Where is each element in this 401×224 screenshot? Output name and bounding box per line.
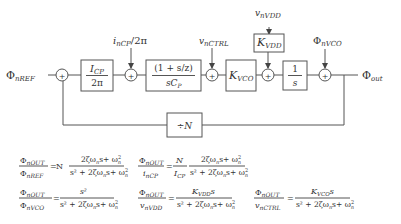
- svg-text:=: =: [53, 194, 60, 203]
- summer-5: +: [319, 69, 331, 81]
- svg-text:ΦnOUT: ΦnOUT: [139, 188, 164, 198]
- equation-vdd-transfer: ΦnOUT vnVDD = KVDDs s² + 2ζωns+ ωn2: [138, 187, 235, 211]
- svg-text:2ζωns+ ωn2: 2ζωns+ ωn2: [81, 154, 121, 165]
- svg-text:ΦnOUT: ΦnOUT: [20, 188, 45, 198]
- svg-text:N: N: [56, 162, 63, 171]
- summer-3: +: [206, 69, 218, 81]
- svg-text:N: N: [175, 156, 184, 165]
- svg-text:ΦnOUT: ΦnOUT: [139, 156, 164, 166]
- svg-text:+: +: [322, 72, 329, 81]
- svg-text:ΦnVCO: ΦnVCO: [20, 201, 44, 211]
- svg-text:=: =: [166, 162, 173, 171]
- svg-text:KVDDs: KVDDs: [191, 187, 215, 197]
- svg-text:=: =: [168, 194, 175, 203]
- output-phi-out-label: Φout: [362, 69, 383, 83]
- svg-text:s² + 2ζωns+ ωn2: s² + 2ζωns+ ωn2: [60, 199, 118, 210]
- svg-text:1: 1: [292, 64, 298, 74]
- kvdd-block: KVDD: [254, 34, 284, 52]
- svg-text:s: s: [293, 78, 298, 88]
- equation-cp-transfer: ΦnOUT inCP = N ICP 2ζωns+ ωn2 s² + 2ζωns…: [138, 154, 248, 179]
- equation-ref-transfer: ΦnOUT ΦnREF = N 2ζωns+ ωn2 s² + 2ζωns+ ω…: [19, 154, 128, 179]
- input-vnvdd-label: vnVDD: [255, 8, 281, 20]
- charge-pump-block: ICP 2π: [81, 60, 113, 91]
- svg-text:ICP: ICP: [173, 169, 185, 179]
- svg-text:÷N: ÷N: [177, 121, 194, 131]
- svg-text:2ζωns+ ωn2: 2ζωns+ ωn2: [201, 154, 241, 165]
- svg-text:ΦnOUT: ΦnOUT: [20, 156, 45, 166]
- summer-4: +: [262, 69, 274, 81]
- svg-text:2π: 2π: [91, 78, 103, 88]
- svg-text:s² + 2ζωns+ ωn2: s² + 2ζωns+ ωn2: [70, 167, 128, 178]
- svg-text:+: +: [209, 72, 216, 81]
- input-vnctrl-label: vnCTRL: [199, 36, 229, 48]
- equation-ctrl-transfer: ΦnOUT vnCTRL = KVCOs s² + 2ζωns+ ωn2: [254, 187, 354, 211]
- kvco-block: KVCO: [226, 60, 256, 91]
- svg-text:s² + 2ζωns+ ωn2: s² + 2ζωns+ ωn2: [177, 199, 235, 210]
- svg-text:s²: s²: [80, 187, 87, 196]
- integrator-block: 1 s: [283, 61, 307, 90]
- input-phi-nvco-label: ΦnVCO: [313, 35, 342, 48]
- svg-text:ΦnOUT: ΦnOUT: [255, 188, 280, 198]
- svg-text:vnVDD: vnVDD: [140, 201, 163, 211]
- svg-text:vnCTRL: vnCTRL: [255, 201, 281, 211]
- summer-2: +: [125, 69, 137, 81]
- divider-block: ÷N: [167, 113, 202, 137]
- equation-vco-transfer: ΦnOUT ΦnVCO = s² s² + 2ζωns+ ωn2: [19, 187, 118, 211]
- input-phi-nref-label: ΦnREF: [6, 69, 36, 83]
- svg-text:inCP: inCP: [143, 169, 159, 179]
- pll-block-diagram: + + + + + ΦnREF ICP 2π inCP/2π (1 + s/z)…: [0, 0, 401, 224]
- summer-1: +: [56, 69, 68, 81]
- svg-text:+: +: [59, 72, 66, 81]
- svg-text:s² + 2ζωns+ ωn2: s² + 2ζωns+ ωn2: [190, 167, 248, 178]
- svg-text:KVCOs: KVCOs: [310, 187, 334, 197]
- input-incp-label: inCP/2π: [113, 35, 148, 48]
- svg-text:+: +: [128, 72, 135, 81]
- svg-text:(1 + s/z): (1 + s/z): [154, 63, 192, 73]
- svg-text:+: +: [265, 72, 272, 81]
- svg-text:s² + 2ζωns+ ωn2: s² + 2ζωns+ ωn2: [296, 199, 354, 210]
- svg-text:=: =: [287, 194, 294, 203]
- loop-filter-block: (1 + s/z) sCP: [146, 60, 201, 91]
- svg-text:ΦnREF: ΦnREF: [20, 169, 44, 179]
